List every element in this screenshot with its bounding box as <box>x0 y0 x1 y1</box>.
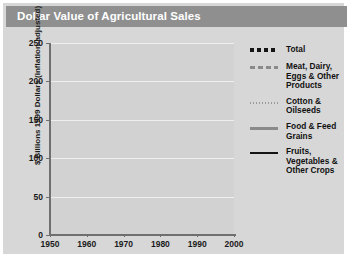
y-axis-title: $ Billions 1999 Dollars (inflation-adjus… <box>33 6 42 166</box>
legend-swatch-icon <box>250 48 278 52</box>
y-tick-mark <box>46 158 49 159</box>
page-title: Dollar Value of Agricultural Sales <box>17 10 201 22</box>
x-tick-label: 1980 <box>140 239 180 249</box>
x-axis-line <box>49 234 236 236</box>
y-tick-mark <box>46 43 49 44</box>
gridline <box>50 43 234 44</box>
gridline <box>50 197 234 198</box>
legend-item-label: Cotton & Oilseeds <box>286 97 346 116</box>
x-tick-mark <box>50 234 51 237</box>
legend-item-label: Food & Feed Grains <box>286 122 346 141</box>
x-tick-mark <box>87 234 88 237</box>
legend-item[interactable]: Food & Feed Grains <box>250 122 346 141</box>
x-tick-mark <box>124 234 125 237</box>
y-tick-label: 50 <box>3 192 43 202</box>
header-bar: Dollar Value of Agricultural Sales <box>6 6 347 27</box>
legend-swatch-icon <box>250 127 278 130</box>
chart-figure: Dollar Value of Agricultural Sales 05010… <box>0 0 347 257</box>
legend-item-label: Total <box>286 45 346 55</box>
legend-swatch-icon <box>250 66 278 69</box>
y-tick-mark <box>46 81 49 82</box>
y-tick-mark <box>46 197 49 198</box>
gridline <box>50 120 234 121</box>
plot-background <box>50 43 234 235</box>
y-tick-mark <box>46 120 49 121</box>
legend-swatch-icon <box>250 102 278 104</box>
legend-item[interactable]: Cotton & Oilseeds <box>250 97 346 116</box>
x-tick-label: 1950 <box>30 239 70 249</box>
legend: TotalMeat, Dairy, Eggs & Other ProductsC… <box>250 45 346 182</box>
gridline <box>50 81 234 82</box>
legend-item-label: Fruits, Vegetables & Other Crops <box>286 147 346 176</box>
y-tick-mark <box>46 235 49 236</box>
x-tick-label: 1970 <box>104 239 144 249</box>
plot-area <box>50 43 234 235</box>
x-tick-label: 1990 <box>177 239 217 249</box>
legend-item[interactable]: Total <box>250 45 346 56</box>
x-tick-label: 1960 <box>67 239 107 249</box>
x-tick-mark <box>197 234 198 237</box>
x-tick-label: 2000 <box>214 239 254 249</box>
y-axis-line <box>49 43 51 236</box>
legend-item[interactable]: Fruits, Vegetables & Other Crops <box>250 147 346 176</box>
legend-item-label: Meat, Dairy, Eggs & Other Products <box>286 62 346 91</box>
gridline <box>50 158 234 159</box>
x-tick-mark <box>160 234 161 237</box>
x-tick-mark <box>234 234 235 237</box>
legend-swatch-icon <box>250 152 278 154</box>
legend-item[interactable]: Meat, Dairy, Eggs & Other Products <box>250 62 346 91</box>
